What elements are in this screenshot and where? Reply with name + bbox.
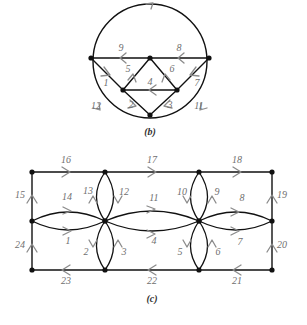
vertex-c-top-mid-right <box>196 169 201 174</box>
vertex-b-bottom <box>147 112 152 117</box>
panel-c-caption: (c) <box>146 293 157 305</box>
edge-label-c-2: 2 <box>84 246 89 257</box>
edge-3-curve <box>105 221 114 270</box>
vertex-c-mid-right <box>269 218 274 223</box>
edge-7-line <box>177 58 209 90</box>
arrow-7 <box>190 67 199 76</box>
edge-2-curve <box>97 221 106 270</box>
edge-label-b-11: 11 <box>194 100 203 111</box>
edge-12-curve <box>105 172 114 221</box>
vertex-b-top-center <box>147 55 152 60</box>
edge-label-b-12: 12 <box>91 100 101 111</box>
edge-label-c-16: 16 <box>61 154 71 165</box>
arrow-7c <box>231 227 239 235</box>
vertex-c-mid-left <box>29 218 34 223</box>
edge-label-b-5: 5 <box>126 63 131 74</box>
edge-label-c-22: 22 <box>147 275 157 286</box>
arrow-11 <box>147 206 155 213</box>
vertex-c-bottom-right <box>269 267 274 272</box>
arrow-13 <box>89 196 97 203</box>
edge-label-c-5: 5 <box>178 246 183 257</box>
edge-label-c-11: 11 <box>149 192 158 203</box>
edge-label-c-21: 21 <box>232 275 242 286</box>
panel-b: 1 2 3 4 5 6 7 8 9 11 12 (b) <box>88 3 211 138</box>
graph-figure-svg: 1 2 3 4 5 6 7 8 9 11 12 (b) <box>0 0 307 325</box>
vertex-c-top-right <box>269 169 274 174</box>
edge-label-c-3: 3 <box>121 246 127 257</box>
vertex-c-bottom-left <box>29 267 34 272</box>
figure-root: 1 2 3 4 5 6 7 8 9 11 12 (b) <box>0 0 307 325</box>
vertex-c-bottom-mid-right <box>196 267 201 272</box>
edge-label-c-8: 8 <box>240 192 245 203</box>
panel-b-caption: (b) <box>144 126 156 138</box>
vertex-b-mid-left <box>120 87 125 92</box>
edge-11-curve <box>105 211 199 221</box>
edge-label-c-19: 19 <box>277 189 287 200</box>
edge-label-c-7: 7 <box>238 236 244 247</box>
edge-label-b-9: 9 <box>119 42 124 53</box>
arrow-2c <box>89 240 97 247</box>
edge-label-c-9: 9 <box>215 186 220 197</box>
edge-label-c-1: 1 <box>66 235 71 246</box>
edge-14-curve <box>32 212 105 221</box>
edge-label-b-3: 3 <box>167 99 173 110</box>
vertex-c-center-right <box>196 218 202 224</box>
edge-label-c-18: 18 <box>232 154 242 165</box>
arrow-1 <box>101 67 110 76</box>
edge-9-curve <box>199 172 208 221</box>
edge-label-c-4: 4 <box>152 235 157 246</box>
vertex-c-top-mid-left <box>102 169 107 174</box>
edge-label-b-6: 6 <box>170 63 175 74</box>
edge-2-line <box>123 90 150 115</box>
edge-label-c-14: 14 <box>62 191 72 202</box>
edge-label-c-23: 23 <box>61 275 71 286</box>
vertex-b-mid-right <box>174 87 179 92</box>
edge-1-curve <box>32 221 105 230</box>
edge-10-curve <box>191 172 200 221</box>
edge-label-c-12: 12 <box>119 186 129 197</box>
edge-label-c-6: 6 <box>216 246 221 257</box>
edge-4-curve <box>105 221 199 231</box>
edge-label-b-1: 1 <box>104 77 109 88</box>
arrow-14 <box>63 207 71 214</box>
edge-13-curve <box>97 172 106 221</box>
vertex-b-left <box>88 55 93 60</box>
vertex-c-top-left <box>29 169 34 174</box>
panel-c: 1 2 3 4 5 6 7 8 9 10 11 12 13 14 15 16 1… <box>15 154 287 305</box>
edge-label-b-7: 7 <box>195 77 201 88</box>
edge-label-c-24: 24 <box>15 239 25 250</box>
edge-6-curve <box>199 221 208 270</box>
edge-label-c-20: 20 <box>277 239 287 250</box>
arrow-5c <box>183 240 191 247</box>
vertex-c-bottom-mid-left <box>102 267 107 272</box>
edge-label-b-4: 4 <box>148 76 153 87</box>
panel-b-circle <box>93 4 207 118</box>
edge-5-curve <box>191 221 200 270</box>
edge-label-c-15: 15 <box>15 189 25 200</box>
arrow-1c <box>63 227 71 235</box>
vertex-c-center-left <box>102 218 108 224</box>
edge-label-b-2: 2 <box>129 99 134 110</box>
vertex-b-right <box>206 55 211 60</box>
edge-label-c-13: 13 <box>83 185 93 196</box>
edge-label-c-17: 17 <box>147 154 158 165</box>
edge-label-c-10: 10 <box>177 186 187 197</box>
edge-label-b-8: 8 <box>177 42 182 53</box>
